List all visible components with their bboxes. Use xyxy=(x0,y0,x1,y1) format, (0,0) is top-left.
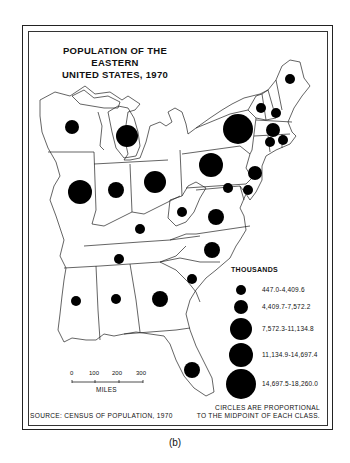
legend-circle-3 xyxy=(230,318,252,340)
circle-delaware xyxy=(243,185,253,195)
scale-tick-200: 200 xyxy=(112,370,122,376)
circle-massachusetts xyxy=(266,123,280,137)
circle-south-carolina xyxy=(187,274,197,284)
circle-new-jersey xyxy=(248,166,262,180)
circle-michigan xyxy=(116,125,138,147)
circle-north-carolina xyxy=(204,242,220,258)
scale-bar xyxy=(72,380,143,383)
circle-maine xyxy=(285,74,295,84)
legend-title: THOUSANDS xyxy=(231,266,278,273)
legend-label-5: 14,697.5-18,260.0 xyxy=(262,380,318,387)
legend-label-3: 7,572.3-11,134.8 xyxy=(262,325,314,332)
scale-unit: MILES xyxy=(96,386,117,393)
circle-connecticut xyxy=(265,137,275,147)
proportional-note-line-2: TO THE MIDPOINT OF EACH CLASS. xyxy=(197,412,320,420)
legend-circle-1 xyxy=(236,285,246,295)
legend-circles xyxy=(226,285,256,399)
circle-indiana xyxy=(108,182,124,198)
legend-circle-4 xyxy=(229,343,253,367)
circle-kentucky xyxy=(135,224,145,234)
legend-label-2: 4,409.7-7,572.2 xyxy=(262,303,311,310)
scale-tick-100: 100 xyxy=(89,370,99,376)
eastern-us-map xyxy=(0,0,350,463)
circle-georgia xyxy=(152,291,168,307)
circle-maryland xyxy=(223,183,233,193)
circle-vermont xyxy=(256,103,266,113)
circle-west-virginia xyxy=(177,207,187,217)
source-note: SOURCE: CENSUS OF POPULATION, 1970 xyxy=(30,412,173,419)
figure-caption: (b) xyxy=(0,437,350,448)
circle-ohio xyxy=(144,171,166,193)
circle-wisconsin xyxy=(65,120,79,134)
legend-circle-5 xyxy=(226,369,256,399)
circle-mississippi xyxy=(71,296,81,306)
legend-label-1: 447.0-4,409.6 xyxy=(262,286,305,293)
proportional-note: CIRCLES ARE PROPORTIONAL TO THE MIDPOINT… xyxy=(197,404,320,420)
scale-tick-0: 0 xyxy=(70,370,73,376)
legend-circle-2 xyxy=(234,300,248,314)
circle-illinois xyxy=(68,180,92,204)
circle-rhode-island xyxy=(278,135,288,145)
circle-pennsylvania xyxy=(199,153,223,177)
circle-tennessee xyxy=(114,254,124,264)
circle-florida xyxy=(184,362,200,378)
state-outlines xyxy=(40,60,310,396)
proportional-note-line-1: CIRCLES ARE PROPORTIONAL xyxy=(197,404,320,412)
legend-label-4: 11,134.9-14,697.4 xyxy=(262,351,318,358)
circle-alabama xyxy=(111,294,121,304)
scale-tick-300: 300 xyxy=(136,370,146,376)
circle-new-york xyxy=(223,114,253,144)
circle-virginia xyxy=(208,209,224,225)
circle-new-hampshire xyxy=(271,108,281,118)
